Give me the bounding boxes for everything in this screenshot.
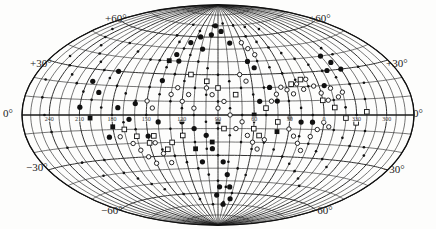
lat-label-left-zero: 0° bbox=[3, 108, 13, 119]
marker-open-circle bbox=[327, 125, 331, 129]
marker-open-circle bbox=[315, 127, 319, 131]
longitude-label: 0 bbox=[323, 116, 326, 122]
longitude-label: 300 bbox=[382, 116, 391, 122]
marker-open-square bbox=[147, 141, 152, 146]
marker-small-dot bbox=[256, 60, 259, 63]
marker-small-dot bbox=[272, 148, 275, 151]
marker-open-circle bbox=[291, 134, 295, 138]
lat-label-left-minus30: −30° bbox=[26, 162, 48, 173]
marker-small-dot bbox=[165, 66, 168, 69]
marker-filled-square bbox=[210, 140, 215, 145]
marker-small-dot bbox=[244, 174, 247, 177]
marker-small-dot bbox=[50, 131, 53, 134]
marker-open-circle bbox=[176, 85, 180, 89]
marker-open-circle bbox=[169, 160, 173, 164]
marker-large-dot bbox=[217, 184, 222, 189]
marker-filled-square bbox=[88, 116, 93, 121]
marker-small-dot bbox=[250, 148, 253, 151]
marker-open-circle bbox=[269, 99, 273, 103]
marker-small-dot bbox=[71, 73, 74, 76]
marker-small-dot bbox=[212, 203, 215, 206]
marker-large-dot bbox=[96, 90, 101, 95]
marker-small-dot bbox=[100, 44, 103, 47]
marker-large-dot bbox=[275, 99, 280, 104]
marker-small-dot bbox=[344, 106, 347, 109]
marker-open-circle bbox=[240, 120, 244, 124]
marker-open-circle bbox=[246, 46, 250, 50]
marker-small-dot bbox=[207, 173, 210, 176]
longitude-label: 150 bbox=[142, 116, 151, 122]
marker-small-dot bbox=[252, 93, 255, 96]
marker-small-dot bbox=[197, 60, 200, 63]
marker-open-square bbox=[222, 126, 227, 131]
marker-open-circle bbox=[139, 148, 143, 152]
marker-small-dot bbox=[205, 93, 208, 96]
marker-small-dot bbox=[293, 58, 296, 61]
marker-small-dot bbox=[232, 24, 235, 27]
marker-open-square bbox=[276, 120, 281, 125]
marker-open-square bbox=[289, 82, 294, 87]
graticule-grid bbox=[22, 5, 414, 225]
marker-open-circle bbox=[210, 92, 214, 96]
marker-small-dot bbox=[150, 183, 153, 186]
marker-open-circle bbox=[239, 41, 243, 45]
marker-open-circle bbox=[222, 99, 226, 103]
marker-small-dot bbox=[169, 127, 172, 130]
marker-large-dot bbox=[221, 159, 226, 164]
marker-small-dot bbox=[321, 158, 324, 161]
marker-small-dot bbox=[123, 172, 126, 175]
marker-open-circle bbox=[250, 140, 254, 144]
marker-small-dot bbox=[221, 22, 224, 25]
longitude-label: 30 bbox=[287, 116, 293, 122]
marker-small-dot bbox=[288, 100, 291, 103]
marker-small-dot bbox=[98, 52, 101, 55]
marker-small-dot bbox=[103, 159, 106, 162]
marker-open-circle bbox=[336, 95, 340, 99]
marker-large-dot bbox=[213, 23, 218, 28]
marker-open-circle bbox=[244, 79, 248, 83]
marker-open-circle bbox=[154, 161, 158, 165]
marker-open-circle bbox=[311, 84, 315, 88]
marker-small-dot bbox=[189, 54, 192, 57]
marker-open-square bbox=[320, 98, 325, 103]
marker-small-dot bbox=[267, 46, 270, 49]
marker-large-dot bbox=[146, 133, 151, 138]
marker-small-dot bbox=[297, 177, 300, 180]
marker-small-dot bbox=[307, 85, 310, 88]
lat-label-left-minus60: −60° bbox=[101, 205, 123, 216]
marker-small-dot bbox=[164, 188, 167, 191]
marker-open-square bbox=[264, 106, 269, 111]
marker-open-square bbox=[216, 86, 221, 91]
marker-large-dot bbox=[218, 29, 223, 34]
marker-open-square bbox=[251, 126, 256, 131]
marker-large-dot bbox=[322, 83, 327, 88]
marker-filled-square bbox=[275, 129, 280, 134]
marker-small-dot bbox=[298, 135, 301, 138]
marker-large-dot bbox=[156, 119, 161, 124]
marker-small-dot bbox=[298, 185, 301, 188]
marker-small-dot bbox=[181, 107, 184, 110]
marker-small-dot bbox=[363, 81, 366, 84]
marker-small-dot bbox=[122, 121, 125, 124]
marker-large-dot bbox=[214, 193, 219, 198]
marker-open-square bbox=[152, 134, 157, 139]
marker-large-dot bbox=[116, 69, 121, 74]
longitude-label: 90 bbox=[215, 116, 221, 122]
marker-open-circle bbox=[216, 106, 220, 110]
marker-small-dot bbox=[363, 154, 366, 157]
marker-small-dot bbox=[205, 147, 208, 150]
marker-small-dot bbox=[364, 98, 367, 101]
marker-small-dot bbox=[288, 163, 291, 166]
marker-small-dot bbox=[293, 170, 296, 173]
marker-open-square bbox=[135, 134, 140, 139]
marker-small-dot bbox=[100, 61, 103, 64]
marker-large-dot bbox=[188, 40, 193, 45]
longitude-label: 210 bbox=[75, 116, 84, 122]
longitude-label: 120 bbox=[177, 116, 186, 122]
marker-large-dot bbox=[227, 184, 232, 189]
marker-small-dot bbox=[307, 63, 310, 66]
marker-small-dot bbox=[174, 155, 177, 158]
marker-small-dot bbox=[169, 100, 172, 103]
marker-small-dot bbox=[66, 146, 69, 149]
marker-small-dot bbox=[229, 107, 232, 110]
